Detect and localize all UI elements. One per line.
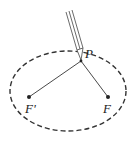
focus-right-dot — [106, 95, 110, 99]
point-p — [80, 60, 83, 63]
string-to-left-focus — [29, 61, 81, 97]
ellipse-construction-diagram: P F' F — [0, 0, 139, 148]
label-f: F — [102, 101, 112, 116]
focus-left-dot — [27, 95, 31, 99]
dashed-ellipse — [10, 51, 126, 131]
label-f-prime: F' — [24, 101, 36, 116]
string-to-right-focus — [81, 61, 108, 97]
pencil-icon — [66, 10, 83, 60]
label-p: P — [84, 46, 93, 61]
